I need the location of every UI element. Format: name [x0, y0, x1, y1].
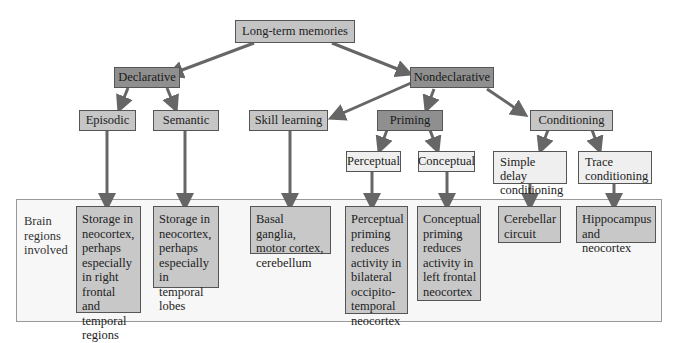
- node-simple-delay-conditioning: Simple delay conditioning: [493, 151, 567, 184]
- node-label: Semantic: [163, 113, 210, 128]
- arrow-declarative-semantic: [167, 88, 174, 105]
- node-label: Trace conditioning: [585, 155, 648, 183]
- node-episodic: Episodic: [79, 110, 136, 131]
- node-long-term-memories: Long-term memories: [235, 20, 355, 43]
- node-trace-conditioning: Trace conditioning: [578, 151, 652, 184]
- arrow-declarative-episodic: [121, 88, 128, 105]
- node-label: Priming: [390, 113, 430, 128]
- node-label: Declarative: [118, 70, 176, 85]
- node-conceptual: Conceptual: [418, 151, 475, 172]
- region-conceptual: Conceptual priming reduces activity in l…: [417, 206, 481, 301]
- region-label: Cerebellar circuit: [504, 212, 556, 241]
- region-label: Hippocampus and neocortex: [582, 212, 651, 256]
- arrow-conditioning-simple: [542, 130, 548, 146]
- arrow-nondeclarative-priming: [428, 89, 434, 105]
- node-label: Simple delay conditioning: [500, 155, 563, 197]
- arrow-priming-conceptual: [430, 130, 436, 146]
- node-priming: Priming: [377, 110, 443, 131]
- node-nondeclarative: Nondeclarative: [410, 67, 494, 88]
- region-label: Perceptual priming reduces activity in b…: [351, 212, 404, 328]
- region-perceptual: Perceptual priming reduces activity in b…: [345, 206, 408, 314]
- node-conditioning: Conditioning: [530, 110, 613, 131]
- node-label: Conceptual: [418, 154, 475, 169]
- region-label: Storage in neocortex, perhaps especially…: [82, 212, 135, 343]
- node-label: Conditioning: [539, 113, 605, 128]
- region-simple-delay: Cerebellar circuit: [498, 206, 561, 243]
- region-trace: Hippocampus and neocortex: [576, 206, 656, 243]
- arrow-priming-perceptual: [381, 130, 387, 146]
- region-skill-learning: Basal ganglia, motor cortex, cerebellum: [250, 206, 331, 254]
- node-label: Skill learning: [255, 113, 323, 128]
- arrow-conditioning-trace: [592, 130, 598, 146]
- brain-regions-label: Brain regions involved: [24, 214, 80, 258]
- node-semantic: Semantic: [153, 110, 219, 131]
- region-label: Storage in neocortex, perhaps especially…: [159, 212, 213, 314]
- node-label: Episodic: [86, 113, 130, 128]
- node-label: Long-term memories: [242, 24, 348, 39]
- node-label: Perceptual: [347, 154, 400, 169]
- region-label: Conceptual priming reduces activity in l…: [423, 212, 480, 299]
- node-label: Nondeclarative: [414, 70, 490, 85]
- region-semantic: Storage in neocortex, perhaps especially…: [153, 206, 219, 288]
- arrow-root-nondeclarative: [332, 43, 405, 72]
- arrow-root-declarative: [174, 43, 254, 73]
- arrow-nondeclarative-conditioning: [487, 89, 521, 112]
- region-episodic: Storage in neocortex, perhaps especially…: [76, 206, 141, 313]
- node-skill-learning: Skill learning: [249, 110, 328, 131]
- node-declarative: Declarative: [114, 67, 180, 88]
- node-perceptual: Perceptual: [346, 151, 401, 172]
- region-label: Basal ganglia, motor cortex, cerebellum: [256, 212, 325, 270]
